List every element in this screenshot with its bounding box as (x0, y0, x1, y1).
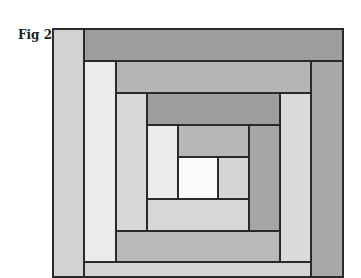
bottom-strip-3 (146, 198, 250, 232)
left-strip-2 (83, 60, 117, 264)
bottom-strip-1 (83, 261, 312, 278)
top-strip-4 (177, 124, 250, 158)
top-strip-1 (83, 28, 344, 62)
right-strip-2 (279, 92, 312, 264)
left-strip-4 (146, 124, 179, 201)
top-strip-2 (115, 60, 312, 94)
left-strip-3 (115, 92, 148, 233)
bottom-strip-2 (115, 230, 281, 263)
center-square (177, 156, 219, 201)
top-strip-3 (146, 92, 281, 126)
figure-label: Fig 2 (18, 28, 52, 42)
right-strip-3 (248, 124, 281, 233)
left-strip-1 (52, 28, 85, 278)
right-strip-1 (310, 60, 344, 278)
right-strip-4 (217, 156, 250, 201)
